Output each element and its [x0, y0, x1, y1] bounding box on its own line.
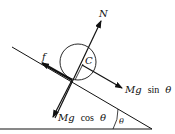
- label-mg-sin: Mg sin θ: [124, 79, 171, 96]
- label-incline-angle: θ: [119, 117, 124, 126]
- label-center: C: [85, 55, 93, 66]
- friction-arrow: [42, 63, 72, 80]
- free-body-diagram: N C f Mg sin θ Mg cos θ θ: [0, 0, 175, 134]
- angle-arc: [113, 109, 118, 129]
- label-friction: f: [41, 51, 48, 62]
- label-mg-cos: Mg cos θ: [57, 107, 106, 124]
- label-normal: N: [98, 8, 109, 19]
